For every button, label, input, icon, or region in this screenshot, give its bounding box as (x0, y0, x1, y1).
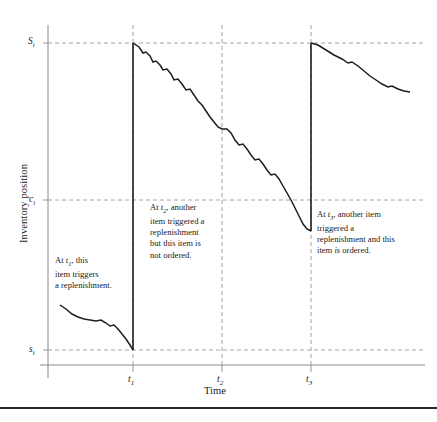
annotation-line: replenishment (150, 227, 226, 238)
x-tick-label-t3: t3 (306, 374, 312, 387)
annotation-line: but this item is (150, 238, 226, 249)
annotation-line: At t2, another (150, 202, 226, 216)
x-tick-label-t1: t1 (128, 374, 134, 387)
annotation-t2: At t2, anotheritem triggered areplenishm… (150, 202, 226, 261)
x-tick-label-t2: t2 (217, 374, 223, 387)
annotation-line: item triggers (55, 269, 133, 280)
y-tick-label-S: Si (28, 36, 35, 49)
annotation-line: triggered a (317, 223, 417, 234)
inventory-position-series (60, 43, 410, 350)
annotation-line: At t3, another item (317, 209, 417, 223)
annotation-line: a replenishment. (55, 280, 133, 291)
horizontal-gridlines (48, 43, 425, 350)
annotation-line: item is ordered. (317, 245, 417, 256)
y-tick-label-s: si (29, 344, 35, 357)
vertical-gridlines (133, 25, 311, 365)
annotation-line: not ordered. (150, 250, 226, 261)
x-tick-marks (133, 365, 311, 372)
annotation-t3: At t3, another itemtriggered areplenishm… (317, 209, 417, 257)
y-tick-label-c: ci (29, 194, 35, 207)
x-axis-title: Time (185, 385, 245, 396)
annotation-line: replenishment and this (317, 234, 417, 245)
y-axis-title: Inventory position (18, 134, 29, 274)
inventory-position-figure: Inventory position Time Si ci si t1 t2 t… (0, 0, 437, 422)
annotation-line: item triggered a (150, 216, 226, 227)
y-tick-marks (43, 43, 48, 350)
series-segment-pre-t1-depletion (60, 305, 133, 350)
annotation-line: At t1, this (55, 255, 133, 269)
series-segment-post-t3-depletion (311, 43, 410, 92)
annotation-t1: At t1, thisitem triggersa replenishment. (55, 255, 133, 291)
